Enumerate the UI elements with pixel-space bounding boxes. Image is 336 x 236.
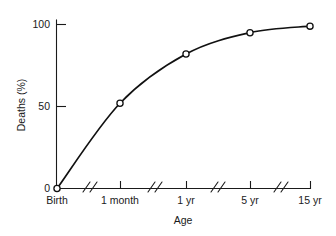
axis-break-4	[274, 182, 288, 192]
axis-break-2	[148, 182, 162, 192]
y-tick-label-100: 100	[32, 18, 50, 30]
x-tick-label-1-yr: 1 yr	[177, 194, 195, 206]
chart-figure: 100 50 0 Deaths (%) Birth 1 month 1	[0, 0, 336, 236]
y-tick-label-50: 50	[38, 100, 50, 112]
data-point-1-yr	[183, 51, 189, 57]
axis-break-1	[83, 182, 97, 192]
x-tick-label-birth: Birth	[46, 194, 68, 206]
y-axis-title: Deaths (%)	[15, 79, 27, 132]
axis-break-3	[211, 182, 225, 192]
data-point-Birth	[54, 185, 60, 191]
chart-canvas: 100 50 0 Deaths (%) Birth 1 month 1	[0, 0, 336, 236]
data-point-15-yr	[307, 23, 313, 29]
x-axis-title: Age	[174, 214, 193, 226]
x-tick-label-1-month: 1 month	[101, 194, 139, 206]
data-series-line	[57, 26, 310, 188]
data-point-1-month	[117, 100, 123, 106]
data-point-markers	[54, 23, 313, 192]
data-point-5-yr	[247, 30, 253, 36]
y-tick-label-0: 0	[44, 182, 50, 194]
x-tick-label-15-yr: 15 yr	[298, 194, 322, 206]
x-tick-label-5-yr: 5 yr	[241, 194, 259, 206]
